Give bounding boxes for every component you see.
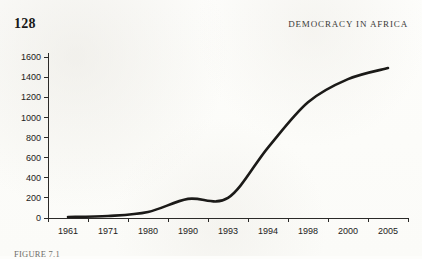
x-axis-tick-label: 1993 — [218, 226, 238, 236]
x-axis-tick-marks — [48, 218, 408, 222]
y-axis-tick-label: 600 — [26, 153, 41, 163]
y-axis-tick-label: 400 — [26, 173, 41, 183]
y-axis-tick-labels: 02004006008001000120014001600 — [21, 52, 41, 223]
x-axis-tick-label: 1998 — [298, 226, 318, 236]
y-axis-tick-marks — [44, 57, 48, 218]
x-axis-tick-label: 2000 — [338, 226, 358, 236]
x-axis-tick-label: 2005 — [378, 226, 398, 236]
y-axis-tick-label: 1400 — [21, 72, 41, 82]
y-axis-tick-label: 800 — [26, 133, 41, 143]
page-number: 128 — [14, 16, 36, 32]
y-axis-tick-label: 1600 — [21, 52, 41, 62]
x-axis-tick-label: 1990 — [178, 226, 198, 236]
x-axis-tick-label: 1994 — [258, 226, 278, 236]
x-axis-tick-label: 1980 — [138, 226, 158, 236]
x-axis-tick-labels: 196119711980199019931994199820002005 — [58, 226, 398, 236]
figure-caption: FIGURE 7.1 — [14, 249, 414, 259]
chart-svg: 02004006008001000120014001600 1961197119… — [0, 42, 422, 242]
y-axis-tick-label: 200 — [26, 193, 41, 203]
running-title: DEMOCRACY IN AFRICA — [288, 19, 408, 29]
y-axis-tick-label: 0 — [36, 213, 41, 223]
y-axis-tick-label: 1000 — [21, 113, 41, 123]
x-axis-tick-label: 1971 — [98, 226, 118, 236]
figure-line-chart: 02004006008001000120014001600 1961197119… — [0, 42, 422, 242]
y-axis-tick-label: 1200 — [21, 92, 41, 102]
x-axis-tick-label: 1961 — [58, 226, 78, 236]
data-series-line — [68, 68, 388, 217]
running-head: 128 DEMOCRACY IN AFRICA — [0, 16, 422, 34]
